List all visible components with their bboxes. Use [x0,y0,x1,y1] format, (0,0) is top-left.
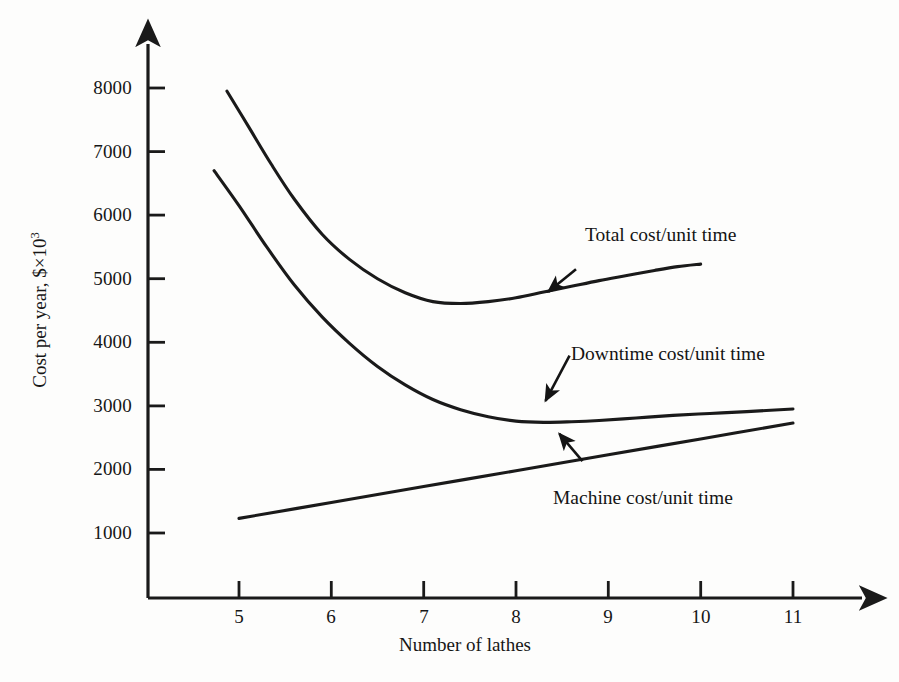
y-axis-title-text: Cost per year, $×10 [29,239,50,388]
annotation-arrow-downtime-cost [546,356,570,401]
y-axis-ticks [148,88,165,533]
x-tick-label-6: 6 [326,606,336,628]
y-tick-label-2000: 2000 [60,458,132,480]
y-tick-label-7000: 7000 [60,141,132,163]
x-tick-label-11: 11 [784,606,803,628]
y-tick-label-6000: 6000 [60,204,132,226]
x-tick-label-5: 5 [234,606,244,628]
x-tick-label-10: 10 [691,606,710,628]
x-tick-label-9: 9 [603,606,613,628]
chart-figure: 1000 2000 3000 4000 5000 6000 7000 8000 … [0,0,899,682]
x-tick-label-7: 7 [419,606,429,628]
y-tick-label-1000: 1000 [60,522,132,544]
series-label-total-cost: Total cost/unit time [585,224,736,246]
x-axis-ticks [239,581,793,598]
series-label-machine-cost: Machine cost/unit time [553,487,733,509]
y-axis-title: Cost per year, $×103 [29,232,51,388]
annotation-arrow-machine-cost [559,434,582,461]
chart-plot-area [0,0,899,682]
y-tick-label-5000: 5000 [60,268,132,290]
y-tick-label-4000: 4000 [60,331,132,353]
x-tick-label-8: 8 [511,606,521,628]
series-line-total-cost [227,91,701,303]
y-axis-title-exponent: 3 [28,232,42,238]
series-label-downtime-cost: Downtime cost/unit time [571,343,765,365]
y-tick-label-3000: 3000 [60,395,132,417]
x-axis-title: Number of lathes [399,634,531,656]
y-tick-label-8000: 8000 [60,77,132,99]
